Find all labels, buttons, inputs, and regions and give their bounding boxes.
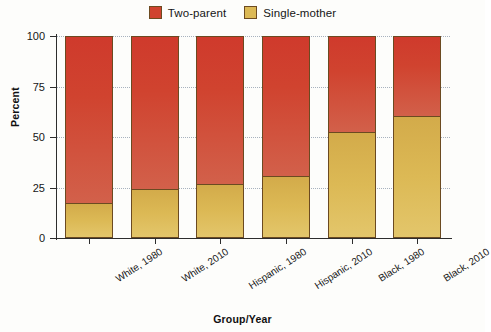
bar-slot xyxy=(65,36,113,238)
bar-slot xyxy=(328,36,376,238)
x-tick-5 xyxy=(417,238,418,244)
x-category-label-2: Hispanic, 1980 xyxy=(247,246,308,291)
bar-segment-single-mother[interactable] xyxy=(132,189,178,237)
x-category-label-1: White, 2010 xyxy=(179,246,230,284)
x-axis-line xyxy=(56,238,452,239)
x-tick-2 xyxy=(220,238,221,244)
stacked-bar[interactable] xyxy=(65,36,113,238)
bar-segment-two-parent[interactable] xyxy=(263,37,309,178)
plot-area xyxy=(56,36,450,238)
y-tick-50: 50 xyxy=(50,137,56,138)
chart-legend: Two-parent Single-mother xyxy=(0,6,485,19)
legend-swatch-two-parent xyxy=(149,6,162,19)
bar-segment-two-parent[interactable] xyxy=(329,37,375,134)
bar-segment-two-parent[interactable] xyxy=(132,37,178,191)
legend-label-two-parent: Two-parent xyxy=(168,7,227,19)
legend-entry-two-parent: Two-parent xyxy=(149,6,227,19)
bar-segment-two-parent[interactable] xyxy=(197,37,243,186)
y-tick-label-75: 75 xyxy=(33,81,45,93)
bar-segment-single-mother[interactable] xyxy=(394,116,440,237)
stacked-bar[interactable] xyxy=(196,36,244,238)
legend-entry-single-mother: Single-mother xyxy=(244,6,336,19)
y-axis-line xyxy=(56,34,57,240)
x-tick-3 xyxy=(286,238,287,244)
bar-slot xyxy=(393,36,441,238)
stacked-bar[interactable] xyxy=(328,36,376,238)
y-tick-25: 25 xyxy=(50,188,56,189)
y-tick-label-50: 50 xyxy=(33,131,45,143)
x-category-label-0: White, 1980 xyxy=(113,246,164,284)
bar-segment-single-mother[interactable] xyxy=(263,176,309,237)
bar-segment-two-parent[interactable] xyxy=(66,37,112,205)
y-tick-100: 100 xyxy=(50,36,56,37)
y-tick-0: 0 xyxy=(50,238,56,239)
bar-segment-two-parent[interactable] xyxy=(394,37,440,118)
stacked-bar[interactable] xyxy=(262,36,310,238)
x-category-label-4: Black, 1980 xyxy=(376,246,426,284)
y-tick-label-0: 0 xyxy=(39,232,45,244)
stacked-bar[interactable] xyxy=(131,36,179,238)
x-category-label-5: Black, 2010 xyxy=(442,246,491,284)
bar-slot xyxy=(131,36,179,238)
bar-segment-single-mother[interactable] xyxy=(197,184,243,237)
legend-swatch-single-mother xyxy=(244,6,257,19)
x-tick-0 xyxy=(89,238,90,244)
x-tick-4 xyxy=(352,238,353,244)
x-axis-title: Group/Year xyxy=(0,313,485,325)
y-tick-label-100: 100 xyxy=(27,30,45,42)
bar-slot xyxy=(262,36,310,238)
y-axis-title: Percent xyxy=(9,109,21,127)
bar-segment-single-mother[interactable] xyxy=(66,203,112,237)
y-tick-75: 75 xyxy=(50,87,56,88)
x-tick-1 xyxy=(155,238,156,244)
legend-label-single-mother: Single-mother xyxy=(263,7,336,19)
x-category-label-3: Hispanic, 2010 xyxy=(313,246,374,291)
bar-segment-single-mother[interactable] xyxy=(329,132,375,237)
y-tick-label-25: 25 xyxy=(33,182,45,194)
bar-group xyxy=(56,36,450,238)
stacked-bar[interactable] xyxy=(393,36,441,238)
bar-slot xyxy=(196,36,244,238)
